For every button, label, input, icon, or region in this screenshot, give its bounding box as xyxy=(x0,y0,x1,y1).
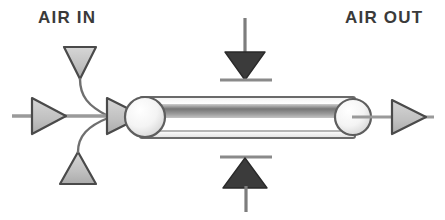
bottom-pressure-arrow-icon xyxy=(223,158,267,188)
diagram-canvas xyxy=(0,0,445,220)
air-in-top-curve xyxy=(80,79,108,116)
air-flow-diagram: AIR IN AIR OUT xyxy=(0,0,445,220)
inlet-flow-arrow-icon xyxy=(32,98,66,134)
top-pressure-arrow-icon xyxy=(225,52,265,80)
cylinder-band xyxy=(142,104,353,118)
air-in-top-arrow-icon xyxy=(64,47,96,79)
air-in-bottom-curve xyxy=(78,118,108,152)
air-in-label: AIR IN xyxy=(38,9,96,26)
outlet-flow-arrow-icon xyxy=(392,100,426,134)
cylinder-left-cap xyxy=(125,97,165,137)
air-out-label: AIR OUT xyxy=(345,9,423,26)
air-in-bottom-arrow-icon xyxy=(60,152,96,184)
